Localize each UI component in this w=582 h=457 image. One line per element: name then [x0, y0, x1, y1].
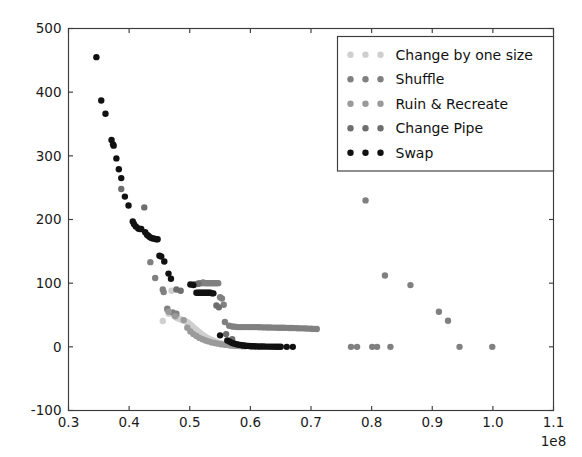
data-point [177, 288, 183, 294]
data-point [217, 332, 223, 338]
legend-marker-icon [347, 101, 353, 107]
data-point [122, 193, 128, 199]
data-point [161, 258, 167, 264]
x-tick-label: 1.1 [543, 414, 564, 430]
y-tick-label: 0 [53, 339, 62, 355]
data-point [387, 344, 393, 350]
legend-marker-icon [347, 125, 353, 131]
x-tick-label: 0.4 [118, 414, 139, 430]
legend-marker-icon [362, 52, 368, 58]
data-point [362, 197, 368, 203]
data-point [190, 282, 196, 288]
x-axis-exponent-label: 1e8 [541, 433, 566, 449]
data-point [215, 280, 221, 286]
data-point [154, 236, 160, 242]
data-point [147, 259, 153, 265]
data-point [277, 344, 283, 350]
legend-label: Change Pipe [396, 120, 484, 136]
data-point [152, 275, 158, 281]
data-point [407, 282, 413, 288]
legend-marker-icon [377, 150, 383, 156]
data-point [113, 155, 119, 161]
y-tick-label: 300 [36, 148, 62, 164]
legend-label: Shuffle [396, 71, 445, 87]
data-point [445, 318, 451, 324]
data-point [216, 304, 222, 310]
y-tick-label: -100 [31, 402, 62, 418]
data-point [160, 318, 166, 324]
legend-marker-icon [377, 52, 383, 58]
data-point [116, 166, 122, 172]
y-tick-label: 400 [36, 84, 62, 100]
data-point [102, 111, 108, 117]
x-tick-label: 0.7 [300, 414, 321, 430]
data-point [374, 344, 380, 350]
data-point [284, 344, 290, 350]
data-point [180, 317, 186, 323]
data-point [348, 344, 354, 350]
legend-marker-icon [362, 150, 368, 156]
legend-marker-icon [377, 76, 383, 82]
legend-label: Ruin & Recreate [396, 96, 509, 112]
data-point [314, 326, 320, 332]
y-tick-label: 500 [36, 20, 62, 36]
legend-label: Change by one size [396, 47, 533, 63]
scatter-plot: 0.30.40.50.60.70.80.91.01.1-100010020030… [0, 0, 582, 457]
data-point [354, 344, 360, 350]
data-point [382, 272, 388, 278]
legend-marker-icon [347, 76, 353, 82]
data-point [456, 344, 462, 350]
data-point [110, 142, 116, 148]
legend-marker-icon [362, 125, 368, 131]
data-point [93, 54, 99, 60]
data-point [168, 276, 174, 282]
data-point [118, 186, 124, 192]
legend-marker-icon [347, 52, 353, 58]
x-tick-label: 0.8 [361, 414, 382, 430]
data-point [219, 295, 225, 301]
y-tick-label: 100 [36, 275, 62, 291]
legend-marker-icon [362, 101, 368, 107]
data-point [223, 331, 229, 337]
data-point [436, 309, 442, 315]
chart-legend: Change by one sizeShuffleRuin & Recreate… [338, 37, 554, 172]
data-point [210, 290, 216, 296]
legend-marker-icon [377, 101, 383, 107]
legend-marker-icon [377, 125, 383, 131]
chart-figure: 0.30.40.50.60.70.80.91.01.1-100010020030… [0, 0, 582, 457]
x-tick-label: 0.5 [179, 414, 200, 430]
y-tick-label: 200 [36, 211, 62, 227]
x-tick-label: 0.6 [240, 414, 261, 430]
data-point [141, 204, 147, 210]
data-point [489, 344, 495, 350]
data-point [98, 97, 104, 103]
data-point [118, 175, 124, 181]
data-point [165, 309, 171, 315]
legend-marker-icon [347, 150, 353, 156]
data-point [160, 289, 166, 295]
data-point [125, 202, 131, 208]
legend-label: Swap [396, 145, 434, 161]
data-point [172, 313, 178, 319]
data-point [290, 344, 296, 350]
x-tick-label: 1.0 [482, 414, 503, 430]
legend-marker-icon [362, 76, 368, 82]
x-tick-label: 0.9 [422, 414, 443, 430]
